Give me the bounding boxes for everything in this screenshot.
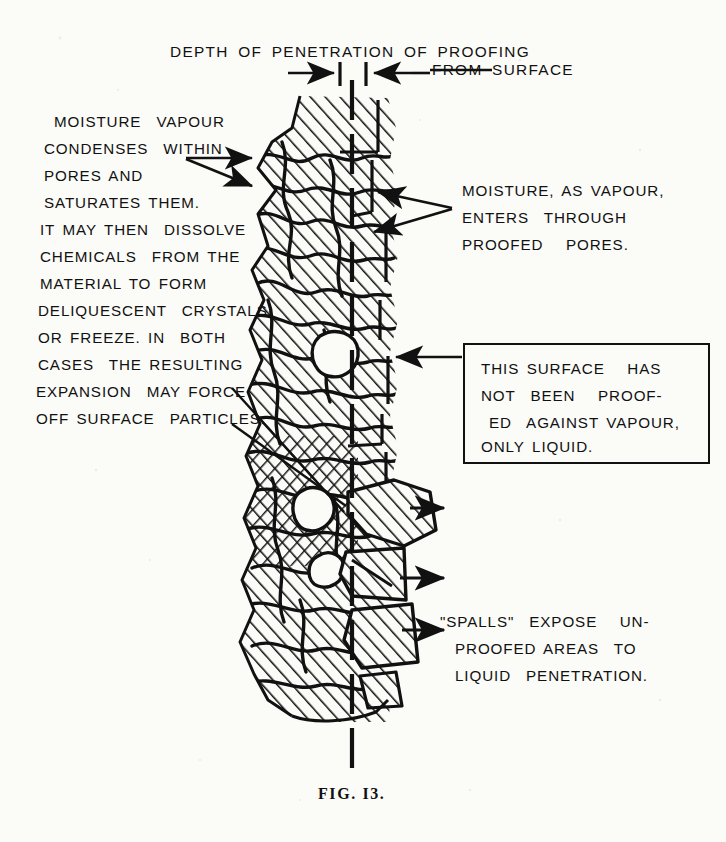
unproofed-line-2: NOT BEEN PROOF- [481,382,663,409]
left-note-line-5: IT MAY THEN DISSOLVE [40,216,246,243]
left-note-line-10: CASES THE RESULTING [38,351,243,378]
left-note-line-9: OR FREEZE. IN BOTH [38,324,226,351]
leader-lines-left [186,158,252,186]
unproofed-line-1: THIS SURFACE HAS [481,355,661,382]
spalls-line-2: PROOFED AREAS TO [455,635,636,662]
left-note-line-3: PORES AND [44,162,143,189]
unproofed-line-3: ED AGAINST VAPOUR, [489,409,680,436]
unproofed-line-4: ONLY LIQUID. [481,433,593,460]
figure-title-line2: FROM SURFACE [432,56,574,83]
left-note-line-12: OFF SURFACE PARTICLES. [36,405,266,432]
figure-caption: FIG. I3. [318,785,385,803]
left-note-line-6: CHEMICALS FROM THE [40,243,240,270]
spalls-line-1: "SPALLS" EXPOSE UN- [440,608,649,635]
left-note-line-7: MATERIAL TO FORM [40,270,207,297]
left-note-line-2: CONDENSES WITHIN [44,135,223,162]
vapour-note-line-3: PROOFED PORES. [462,231,629,258]
spalls-line-3: LIQUID PENETRATION. [455,662,648,689]
left-note-line-1: MOISTURE VAPOUR [54,108,225,135]
vapour-note-line-2: ENTERS THROUGH [462,204,627,231]
left-note-line-4: SATURATES THEM. [44,189,200,216]
left-note-line-11: EXPANSION MAY FORCE [36,378,246,405]
vapour-note-line-1: MOISTURE, AS VAPOUR, [462,177,664,204]
left-note-line-8: DELIQUESCENT CRYSTALS, [38,297,273,324]
